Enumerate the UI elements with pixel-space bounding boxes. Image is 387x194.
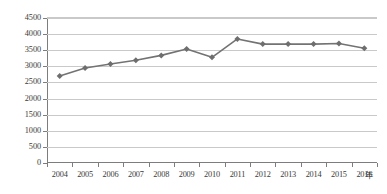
data-point-marker — [107, 61, 113, 67]
data-point-marker — [133, 57, 139, 63]
data-point-marker — [82, 65, 88, 71]
data-point-marker — [336, 40, 342, 46]
data-point-marker — [184, 46, 190, 52]
data-point-marker — [260, 41, 266, 47]
data-point-marker — [285, 41, 291, 47]
data-point-marker — [57, 73, 63, 79]
data-point-markers — [57, 36, 368, 79]
data-point-marker — [158, 52, 164, 58]
line-chart: 050010001500200025003000350040004500 200… — [0, 0, 387, 194]
data-point-marker — [361, 45, 367, 51]
data-point-marker — [311, 41, 317, 47]
series-svg — [0, 0, 387, 194]
